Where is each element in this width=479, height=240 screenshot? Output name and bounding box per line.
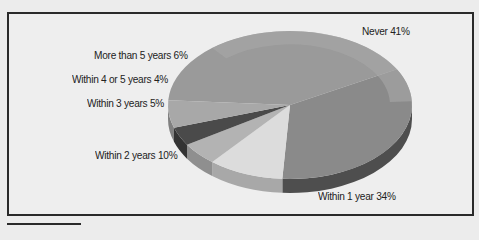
label-within-1-year: Within 1 year 34%: [318, 190, 396, 202]
label-more-than-5-years: More than 5 years 6%: [94, 49, 188, 61]
label-within-4-or-5-years: Within 4 or 5 years 4%: [72, 73, 168, 85]
label-within-3-years: Within 3 years 5%: [87, 97, 164, 109]
label-never: Never 41%: [362, 25, 410, 37]
label-within-2-years: Within 2 years 10%: [95, 149, 177, 161]
